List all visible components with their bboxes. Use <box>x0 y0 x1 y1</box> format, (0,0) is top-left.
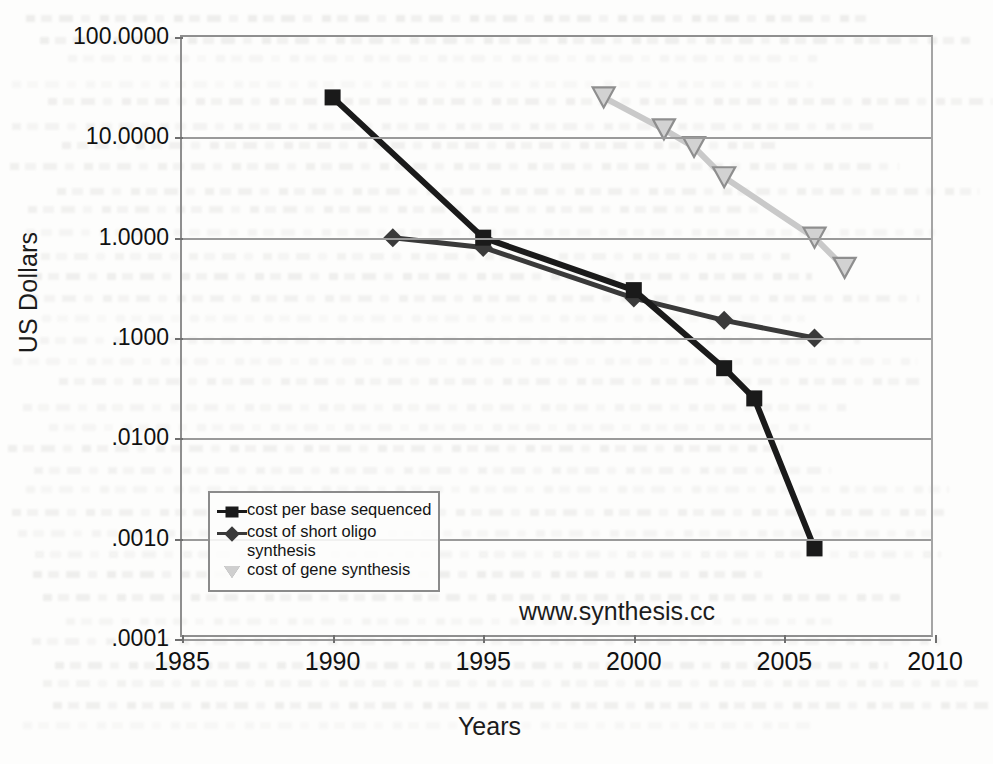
x-tick-label: 2010 <box>907 647 963 676</box>
x-tick-mark <box>333 635 335 643</box>
y-tick-mark <box>175 338 183 340</box>
y-gridline <box>182 338 931 340</box>
x-tick-label: 1990 <box>305 647 361 676</box>
x-axis-title: Years <box>0 712 979 741</box>
data-point-marker <box>834 258 856 278</box>
legend-item: cost of gene synthesis <box>217 560 432 581</box>
y-tick-label: 10.0000 <box>86 123 169 150</box>
legend-item-label: cost of short oligo synthesis <box>247 522 432 559</box>
data-point-marker <box>715 311 734 330</box>
data-point-marker <box>807 540 823 556</box>
y-gridline <box>182 438 931 440</box>
x-tick-mark <box>483 635 485 643</box>
watermark-label: www.synthesis.cc <box>519 597 715 626</box>
data-point-marker <box>626 282 642 298</box>
x-tick-label: 1985 <box>154 647 210 676</box>
y-axis-title: US Dollars <box>14 203 43 383</box>
data-point-marker <box>746 390 762 406</box>
triangle-marker-icon <box>217 562 247 581</box>
diamond-marker-icon <box>217 524 247 543</box>
y-gridline <box>182 137 931 139</box>
square-marker-icon <box>217 502 247 521</box>
y-tick-label: .1000 <box>111 324 169 351</box>
x-tick-mark <box>182 635 184 643</box>
y-gridline <box>182 639 931 641</box>
legend-item-label: cost of gene synthesis <box>247 560 410 579</box>
x-tick-mark <box>634 635 636 643</box>
data-point-marker <box>716 360 732 376</box>
y-gridline <box>182 238 931 240</box>
y-tick-mark <box>175 137 183 139</box>
series-line <box>393 238 815 338</box>
y-tick-label: 100.0000 <box>73 23 169 50</box>
y-tick-mark <box>175 539 183 541</box>
y-tick-mark <box>175 238 183 240</box>
y-tick-label: 1.0000 <box>99 224 169 251</box>
legend-item: cost per base sequenced <box>217 500 432 521</box>
x-tick-mark <box>935 635 937 643</box>
legend-item: cost of short oligo synthesis <box>217 522 432 559</box>
chart-legend: cost per base sequencedcost of short oli… <box>208 491 440 592</box>
x-tick-label: 2005 <box>757 647 813 676</box>
x-tick-label: 2000 <box>606 647 662 676</box>
data-point-marker <box>325 89 341 105</box>
y-tick-mark <box>175 438 183 440</box>
x-tick-mark <box>784 635 786 643</box>
y-tick-label: .0010 <box>111 525 169 552</box>
legend-item-label: cost per base sequenced <box>247 500 431 519</box>
x-tick-label: 1995 <box>455 647 511 676</box>
y-tick-mark <box>175 37 183 39</box>
y-tick-label: .0100 <box>111 424 169 451</box>
